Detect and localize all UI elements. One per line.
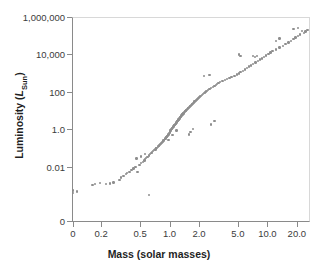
data-point bbox=[144, 153, 146, 155]
data-point bbox=[189, 131, 191, 133]
plot-area bbox=[72, 17, 310, 222]
y-axis-tick-label: 0.01 bbox=[47, 161, 66, 172]
data-point bbox=[282, 45, 284, 47]
data-point bbox=[271, 50, 273, 52]
x-axis-tick bbox=[140, 222, 141, 227]
x-axis-tick bbox=[297, 222, 298, 227]
y-axis-tick bbox=[67, 92, 72, 93]
data-point bbox=[105, 183, 107, 185]
x-axis-tick-label: 0 bbox=[70, 228, 75, 239]
data-point bbox=[94, 183, 96, 185]
data-point bbox=[275, 40, 277, 42]
data-point bbox=[213, 120, 215, 122]
data-point bbox=[167, 139, 169, 141]
x-axis-tick-label: 10.0 bbox=[258, 228, 277, 239]
data-point bbox=[278, 46, 280, 48]
data-point bbox=[138, 164, 140, 166]
data-point bbox=[278, 37, 280, 39]
data-point bbox=[109, 182, 111, 184]
data-point bbox=[192, 128, 194, 130]
x-axis-tick-label: 5.0 bbox=[231, 228, 244, 239]
y-axis-tick bbox=[67, 221, 72, 222]
data-point bbox=[297, 27, 299, 29]
y-axis-tick-label: 1.0 bbox=[52, 124, 65, 135]
data-point bbox=[134, 166, 136, 168]
x-axis-tick bbox=[170, 222, 171, 227]
data-point bbox=[208, 74, 210, 76]
data-point bbox=[275, 48, 277, 50]
data-point bbox=[148, 194, 150, 196]
x-axis-tick bbox=[73, 222, 74, 227]
data-point bbox=[306, 29, 308, 31]
x-axis-tick bbox=[101, 222, 102, 227]
y-axis-tick-label: 0 bbox=[60, 216, 65, 227]
x-axis-tick bbox=[238, 222, 239, 227]
y-axis-tick bbox=[67, 167, 72, 168]
x-axis-title: Mass (solar masses) bbox=[0, 248, 318, 260]
data-point bbox=[210, 123, 212, 125]
data-point bbox=[299, 33, 301, 35]
x-axis-tick-label: 1.0 bbox=[163, 228, 176, 239]
data-point bbox=[290, 40, 292, 42]
data-point bbox=[140, 155, 142, 157]
mass-luminosity-scatter-chart: 00.011.010010,0001,000,00000.20.51.02.05… bbox=[0, 0, 318, 270]
data-point bbox=[73, 192, 74, 194]
x-axis-tick-label: 20.0 bbox=[288, 228, 307, 239]
data-point bbox=[112, 181, 114, 183]
y-axis-title: Luminosity (LSun) bbox=[13, 36, 28, 196]
data-point bbox=[239, 55, 241, 57]
y-axis-tick-label: 100 bbox=[49, 86, 65, 97]
data-point bbox=[287, 41, 289, 43]
data-point bbox=[292, 28, 294, 30]
x-axis-tick-label: 2.0 bbox=[192, 228, 205, 239]
data-point bbox=[171, 134, 173, 136]
data-point bbox=[76, 190, 78, 192]
x-axis-tick-label: 0.2 bbox=[95, 228, 108, 239]
y-axis-tick-label: 1,000,000 bbox=[23, 12, 65, 23]
data-point bbox=[73, 189, 74, 191]
data-point bbox=[203, 75, 205, 77]
data-point bbox=[188, 133, 190, 135]
y-axis-tick bbox=[67, 17, 72, 18]
y-axis-tick bbox=[67, 54, 72, 55]
data-point bbox=[136, 171, 138, 173]
x-axis-tick bbox=[199, 222, 200, 227]
x-axis-tick bbox=[267, 222, 268, 227]
scatter-points-layer bbox=[73, 18, 309, 221]
y-axis-tick-label: 10,000 bbox=[36, 49, 65, 60]
data-point bbox=[175, 129, 177, 131]
x-axis-tick-label: 0.5 bbox=[133, 228, 146, 239]
data-point bbox=[135, 157, 137, 159]
data-point bbox=[122, 175, 124, 177]
data-point bbox=[118, 179, 120, 181]
y-axis-tick bbox=[67, 129, 72, 130]
data-point bbox=[99, 182, 101, 184]
